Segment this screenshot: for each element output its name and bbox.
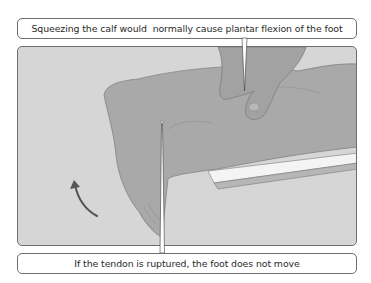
bottom-caption-box: If the tendon is ruptured, the foot does… — [17, 253, 357, 274]
plantar-flexion-arrow-icon — [70, 180, 97, 216]
top-caption-box: Squeezing the calf would normally cause … — [17, 18, 357, 39]
illustration-panel — [17, 46, 357, 246]
top-caption-text: Squeezing the calf would normally cause … — [31, 23, 342, 34]
bottom-caption-text: If the tendon is ruptured, the foot does… — [74, 258, 299, 269]
leg-illustration — [18, 47, 357, 246]
